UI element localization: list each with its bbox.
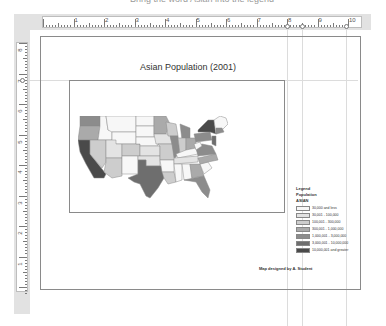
ruler-tick (244, 25, 245, 27)
ruler-tick (205, 25, 206, 27)
ruler-tick (342, 25, 343, 27)
ruler-tick (25, 192, 27, 193)
ruler-tick (25, 138, 27, 139)
ruler-tick (25, 247, 27, 248)
ruler-tick (260, 25, 261, 27)
ruler-tick (238, 25, 239, 27)
ruler-tick (138, 25, 139, 27)
map-legend[interactable]: Legend Population ASIAN 30,000 and less3… (296, 186, 356, 253)
ruler-tick (23, 211, 27, 212)
ruler-tick (92, 25, 93, 27)
legend-swatch (296, 220, 310, 225)
ruler-tick (19, 43, 27, 44)
ruler-tick (25, 177, 27, 178)
ruler-tick (199, 25, 200, 27)
ruler-tick (235, 25, 236, 27)
ruler-tick (263, 25, 264, 27)
ruler-tick (266, 25, 267, 27)
ruler-tick (89, 23, 90, 27)
ruler-tick (186, 25, 187, 27)
horizontal-ruler[interactable]: 12345678910 (42, 16, 362, 28)
ruler-tick (25, 128, 27, 129)
ruler-tick (25, 107, 27, 108)
ruler-tick (211, 23, 212, 27)
ruler-tick (25, 290, 27, 291)
ruler-tick (25, 214, 27, 215)
legend-swatch (296, 234, 310, 239)
ruler-tick (25, 92, 27, 93)
ruler-tick (177, 25, 178, 27)
ruler-tick (25, 110, 27, 111)
ruler-tick (95, 25, 96, 27)
map-credit-text[interactable]: Map designed by A. Student (259, 266, 312, 271)
legend-swatch (296, 227, 310, 232)
ruler-tick (25, 199, 27, 200)
ruler-label: 8 (17, 48, 23, 51)
ruler-label: 5 (197, 17, 200, 23)
ruler-tick (25, 46, 27, 47)
ruler-tick (250, 25, 251, 27)
ruler-tick (150, 23, 151, 27)
ruler-tick (19, 196, 27, 197)
ruler-tick (25, 238, 27, 239)
ruler-tick (77, 25, 78, 27)
legend-label: 30,001 - 100,000 (312, 213, 338, 217)
ruler-tick (314, 25, 315, 27)
legend-label: 3,000,001 - 10,000,000 (312, 241, 348, 245)
ruler-label: 10 (349, 17, 356, 23)
ruler-tick (25, 293, 27, 294)
legend-label: 100,001 - 300,000 (312, 220, 340, 224)
ruler-label: 6 (227, 17, 230, 23)
legend-label: 10,000,001 and greater (312, 248, 348, 252)
ruler-tick (67, 25, 68, 27)
ruler-tick (168, 25, 169, 27)
legend-item: 300,001 - 1,000,000 (296, 226, 356, 232)
ruler-tick (25, 235, 27, 236)
ruler-tick (25, 260, 27, 261)
ruler-tick (147, 25, 148, 27)
ruler-label: 4 (17, 170, 23, 173)
ruler-tick (141, 25, 142, 27)
ruler-tick (80, 25, 81, 27)
ruler-tick (321, 25, 322, 27)
ruler-tick (19, 257, 27, 258)
ruler-tick (174, 25, 175, 27)
map-title[interactable]: Asian Population (2001) (0, 62, 386, 72)
guide-marker[interactable] (300, 24, 305, 29)
guide-marker[interactable] (285, 24, 290, 29)
ruler-tick (25, 162, 27, 163)
ruler-tick (25, 49, 27, 50)
guide-marker[interactable] (344, 24, 349, 29)
ruler-tick (25, 220, 27, 221)
ruler-tick (19, 135, 27, 136)
legend-item: 100,001 - 300,000 (296, 219, 356, 225)
ruler-label: 2 (17, 231, 23, 234)
ruler-tick (98, 25, 99, 27)
ruler-tick (247, 25, 248, 27)
ruler-tick (23, 241, 27, 242)
ruler-label: 9 (319, 17, 322, 23)
us-states-map[interactable] (78, 116, 228, 204)
legend-item: 30,000 and less (296, 205, 356, 211)
ruler-tick (110, 25, 111, 27)
ruler-tick (49, 25, 50, 27)
ruler-label: 6 (17, 109, 23, 112)
ruler-tick (25, 131, 27, 132)
ruler-tick (125, 25, 126, 27)
ruler-tick (58, 23, 59, 27)
ruler-tick (311, 25, 312, 27)
legend-item: 30,001 - 100,000 (296, 212, 356, 218)
ruler-tick (23, 272, 27, 273)
ruler-tick (25, 98, 27, 99)
ruler-tick (25, 278, 27, 279)
ruler-tick (86, 25, 87, 27)
ruler-tick (214, 25, 215, 27)
guide-marker[interactable] (20, 78, 25, 83)
ruler-tick (55, 25, 56, 27)
legend-swatch (296, 248, 310, 253)
ruler-tick (23, 150, 27, 151)
ruler-tick (25, 205, 27, 206)
ruler-tick (25, 147, 27, 148)
ruler-tick (25, 101, 27, 102)
ruler-tick (113, 25, 114, 27)
